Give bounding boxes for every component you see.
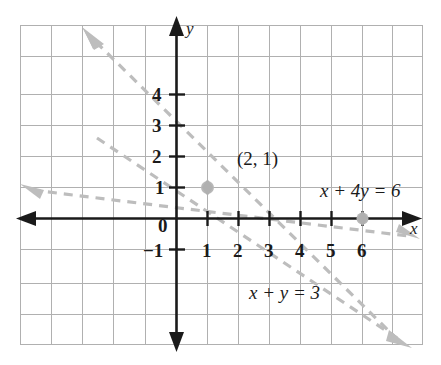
y-tick-label-1: 1: [155, 178, 165, 197]
x-tick-label-2: 2: [233, 241, 243, 260]
graph-figure: y x 0 4 3 2 1 −1 1 2 3 4 5 6 (2, 1) x + …: [0, 0, 441, 365]
y-tick-label-3: 3: [152, 116, 162, 135]
equation-label-line2: x + y = 3: [249, 283, 320, 302]
y-tick-label-4: 4: [152, 85, 162, 104]
x-tick-label-4: 4: [295, 241, 305, 260]
y-tick-label-2: 2: [152, 147, 162, 166]
point-marker-6-0: [357, 211, 369, 226]
x-tick-label-6: 6: [357, 241, 367, 260]
intersection-point-label: (2, 1): [237, 149, 278, 168]
x-axis-left-arrowhead: [16, 211, 36, 226]
x-axis-label: x: [410, 220, 418, 237]
y-tick-label-minus-1: −1: [143, 241, 163, 260]
line1-left-arrowhead: [20, 184, 44, 199]
x-tick-label-3: 3: [264, 241, 274, 260]
origin-label: 0: [158, 216, 168, 235]
x-tick-label-5: 5: [326, 241, 336, 260]
line2-down-right-arrowhead: [386, 330, 412, 348]
x-tick-label-1: 1: [202, 241, 212, 260]
y-axis-label: y: [186, 20, 194, 37]
point-marker-2-1: [201, 179, 214, 196]
y-axis-bottom-arrowhead: [169, 332, 184, 352]
equation-label-line1: x + 4y = 6: [320, 181, 401, 200]
